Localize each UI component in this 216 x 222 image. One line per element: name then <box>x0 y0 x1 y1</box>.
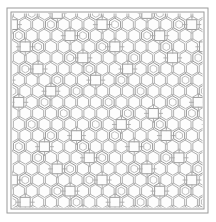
tessellation-drawing <box>0 0 216 222</box>
figure-container: Hexagonal rosette tessellation panel Squ… <box>0 0 216 222</box>
